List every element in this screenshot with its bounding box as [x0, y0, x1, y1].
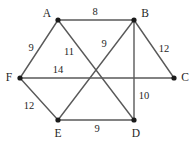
graph-vertex-c: [171, 75, 176, 80]
graph-vertex-e: [55, 117, 60, 122]
graph-figure: 89119121014129ABCDEF: [0, 0, 195, 146]
graph-vertex-f: [17, 75, 22, 80]
graph-vertex-d: [131, 117, 136, 122]
edges-layer: [20, 20, 174, 120]
graph-vertex-b: [131, 17, 136, 22]
graph-edge-af: [20, 20, 58, 78]
vertices-layer: [17, 17, 176, 122]
graph-vertex-a: [55, 17, 60, 22]
graph-edge-fe: [20, 78, 58, 120]
graph-canvas: [0, 0, 195, 146]
graph-edge-bc: [134, 20, 174, 78]
